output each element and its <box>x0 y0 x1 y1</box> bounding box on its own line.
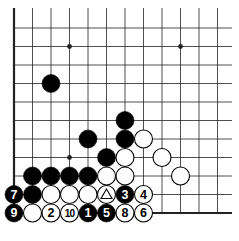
move-number: 8 <box>122 206 129 220</box>
white-stone <box>116 149 134 167</box>
white-stone <box>153 149 171 167</box>
white-stone <box>42 186 60 204</box>
black-stone <box>79 130 97 148</box>
black-stone <box>79 167 97 185</box>
white-stone <box>98 186 116 204</box>
move-number: 5 <box>103 206 110 220</box>
black-stone <box>116 130 134 148</box>
white-stone-6: 6 <box>135 204 153 222</box>
white-stone <box>98 167 116 185</box>
black-stone-5: 5 <box>98 204 116 222</box>
white-stone-10: 10 <box>61 204 79 222</box>
move-number: 7 <box>11 188 18 202</box>
star-point <box>67 44 72 49</box>
move-number: 3 <box>122 188 129 202</box>
white-stone <box>172 167 190 185</box>
white-stone <box>24 204 42 222</box>
white-stone <box>61 186 79 204</box>
move-number: 2 <box>48 206 55 220</box>
black-stone-1: 1 <box>79 204 97 222</box>
black-stone <box>42 75 60 93</box>
black-stone <box>61 167 79 185</box>
black-stone <box>98 149 116 167</box>
move-number: 9 <box>11 206 18 220</box>
white-stone-2: 2 <box>42 204 60 222</box>
black-stone <box>42 167 60 185</box>
black-stone <box>116 112 134 130</box>
black-stone-7: 7 <box>5 186 23 204</box>
move-number: 4 <box>140 188 147 202</box>
black-stone <box>24 167 42 185</box>
black-stone-9: 9 <box>5 204 23 222</box>
go-board-diagram: 73492101586 <box>0 0 239 241</box>
star-point <box>178 44 183 49</box>
black-stone <box>24 186 42 204</box>
white-stone <box>79 186 97 204</box>
star-point <box>67 155 72 160</box>
white-stone-8: 8 <box>116 204 134 222</box>
move-number: 6 <box>140 206 147 220</box>
black-stone-3: 3 <box>116 186 134 204</box>
move-number: 1 <box>85 206 92 220</box>
white-stone <box>116 167 134 185</box>
move-number: 10 <box>65 208 76 219</box>
white-stone-4: 4 <box>135 186 153 204</box>
white-stone <box>135 130 153 148</box>
